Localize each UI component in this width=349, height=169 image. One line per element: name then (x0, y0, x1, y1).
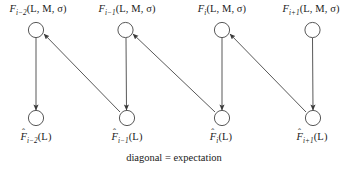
node-Fhat-i[interactable] (214, 110, 229, 125)
label-Fhat-i-2-subscript: i−2 (27, 137, 38, 145)
diagonal-edge-from-i-plus-1-to-i (230, 34, 306, 112)
label-F-i-1: Fi−1(L, M, σ) (98, 3, 155, 17)
figure-caption: diagonal = expectation (126, 152, 222, 163)
label-F-i-2-args: (L, M, σ) (27, 3, 67, 14)
label-F-i-2-subscript: i−2 (16, 9, 27, 17)
bottom-row-nodes (28, 110, 320, 125)
hat-accent-i-plus-1: ˆ (298, 128, 301, 137)
expectation-diagram: Fi−2(L, M, σ) Fi−1(L, M, σ) Fi(L, M, σ) … (0, 0, 349, 169)
vertical-edge-i-plus-1 (313, 38, 314, 110)
label-F-i: Fi(L, M, σ) (198, 3, 246, 17)
hat-accent-i: ˆ (211, 128, 214, 137)
label-F-i-2: Fi−2(L, M, σ) (9, 3, 66, 17)
label-F-i-1-args: (L, M, σ) (116, 3, 156, 14)
diagonal-edges (44, 34, 306, 112)
label-F-i-plus-1: Fi+1(L, M, σ) (282, 3, 339, 17)
label-Fhat-i-1-args: (L) (129, 131, 143, 142)
label-Fhat-i-args: (L) (218, 131, 232, 142)
node-Fhat-i-plus-1[interactable] (305, 110, 320, 125)
label-Fhat-i-plus-1-subscript: i+1 (303, 137, 314, 145)
node-F-i-2[interactable] (28, 22, 43, 37)
label-F-i-plus-1-subscript: i+1 (289, 9, 300, 17)
label-F-i-1-subscript: i−1 (105, 9, 116, 17)
node-F-i-1[interactable] (118, 22, 133, 37)
node-Fhat-i-1[interactable] (119, 110, 134, 125)
top-row-nodes (28, 22, 320, 37)
label-Fhat-i-2: ˆFi−2(L) (21, 131, 52, 145)
label-Fhat-i-plus-1: ˆFi+1(L) (297, 131, 328, 145)
label-F-i-args: (L, M, σ) (206, 3, 246, 14)
label-Fhat-i: ˆFi(L) (210, 131, 232, 145)
diagonal-edge-from-i-1-to-i-2 (44, 34, 120, 112)
node-Fhat-i-2[interactable] (28, 110, 43, 125)
label-F-i-plus-1-args: (L, M, σ) (300, 3, 340, 14)
node-F-i[interactable] (214, 22, 229, 37)
hat-accent-i-1: ˆ (113, 128, 116, 137)
hat-accent-i-2: ˆ (22, 128, 25, 137)
label-Fhat-i-2-args: (L) (38, 131, 52, 142)
node-F-i-plus-1[interactable] (305, 22, 320, 37)
label-Fhat-i-1: ˆFi−1(L) (112, 131, 143, 145)
diagonal-edge-from-i-to-i-1 (133, 34, 215, 112)
label-Fhat-i-plus-1-args: (L) (314, 131, 328, 142)
vertical-edge-i-1 (126, 38, 127, 110)
label-Fhat-i-1-subscript: i−1 (118, 137, 129, 145)
